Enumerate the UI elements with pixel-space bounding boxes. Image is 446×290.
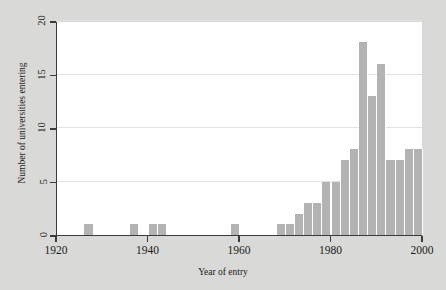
plot-area	[56, 22, 422, 236]
x-axis-tick-label: 1960	[216, 244, 262, 256]
y-axis-tick-label: 0	[12, 229, 46, 240]
y-axis-tick-label: 20	[12, 15, 46, 26]
histogram-bar	[286, 224, 295, 235]
histogram-bar	[158, 224, 167, 235]
bars-container	[57, 22, 422, 235]
histogram-bar	[414, 149, 423, 235]
histogram-bar	[322, 182, 331, 236]
histogram-bar	[350, 149, 359, 235]
histogram-bar	[386, 160, 395, 235]
histogram-bar	[332, 182, 341, 236]
x-axis-tick-label: 1980	[308, 244, 354, 256]
y-axis-tick	[50, 128, 56, 129]
x-axis-tick-label: 2000	[399, 244, 445, 256]
histogram-bar	[130, 224, 139, 235]
histogram-bar	[84, 224, 93, 235]
histogram-figure: 05101520 19201940196019802000 Number of …	[0, 0, 446, 290]
histogram-bar	[377, 64, 386, 235]
histogram-bar	[396, 160, 405, 235]
y-axis-title: Number of universities entering	[17, 33, 27, 213]
x-axis-tick	[55, 236, 56, 242]
x-axis-tick	[421, 236, 422, 242]
y-axis-tick	[50, 182, 56, 183]
histogram-bar	[304, 203, 313, 235]
histogram-bar	[231, 224, 240, 235]
x-axis-tick	[147, 236, 148, 242]
histogram-bar	[359, 42, 368, 235]
y-axis-tick	[50, 75, 56, 76]
histogram-bar	[277, 224, 286, 235]
histogram-bar	[149, 224, 158, 235]
x-axis-tick-label: 1920	[33, 244, 79, 256]
x-axis-tick-label: 1940	[125, 244, 171, 256]
y-axis-tick	[50, 21, 56, 22]
gridline	[57, 20, 422, 21]
histogram-bar	[313, 203, 322, 235]
x-axis-tick	[330, 236, 331, 242]
histogram-bar	[341, 160, 350, 235]
histogram-bar	[295, 214, 304, 235]
histogram-bar	[405, 149, 414, 235]
histogram-bar	[368, 96, 377, 235]
x-axis-tick	[238, 236, 239, 242]
x-axis-title: Year of entry	[0, 267, 446, 277]
